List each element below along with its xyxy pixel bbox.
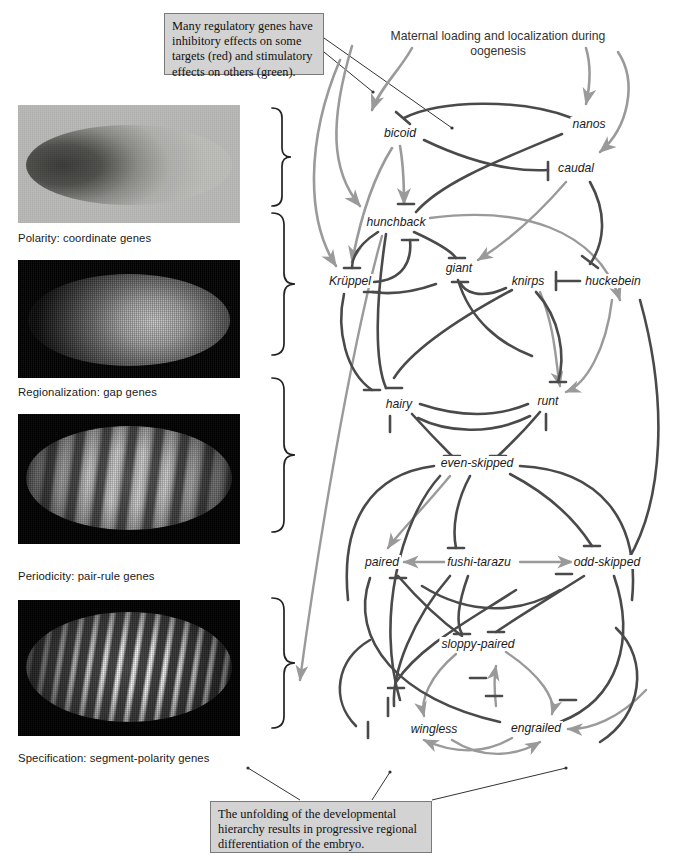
- edge-maternal-kruppel: [314, 60, 340, 266]
- gene-runt[interactable]: runt: [535, 394, 560, 408]
- edge-long-right: [628, 300, 658, 560]
- tier-braces: [272, 108, 295, 728]
- edge-maternal-bicoid: [372, 48, 412, 110]
- edge-bicoid-hunchback: [400, 146, 404, 204]
- gene-knirps[interactable]: knirps: [510, 274, 547, 288]
- edge-maternal-nanos: [586, 48, 590, 104]
- edge-wg-feedback: [340, 640, 370, 726]
- edge-sloppy-engrailed: [506, 652, 553, 714]
- edge-eve-loop-left: [347, 466, 434, 600]
- figure-root: Polarity: coordinate genes Regionalizati…: [0, 0, 676, 860]
- brace-pair-rule: [272, 378, 295, 532]
- gene-hairy[interactable]: hairy: [384, 397, 414, 411]
- leader-bottom-mid: [372, 772, 390, 800]
- gene-odd-skipped[interactable]: odd-skipped: [572, 555, 642, 569]
- brace-segment-polarity: [272, 598, 295, 728]
- gene-engrailed[interactable]: engrailed: [509, 721, 563, 735]
- brace-gap: [272, 213, 295, 355]
- gene-caudal[interactable]: caudal: [556, 161, 596, 175]
- edge-en-feedback: [600, 628, 637, 742]
- gene-sloppy-paired[interactable]: sloppy-paired: [439, 637, 516, 651]
- gene-wingless[interactable]: wingless: [409, 722, 460, 736]
- edge-runt-eve: [498, 412, 540, 456]
- edge-hairy-eve: [412, 414, 452, 456]
- edge-gap-runt: [566, 300, 612, 392]
- edge-maternal-hunchback-a: [336, 46, 360, 206]
- brace-polarity: [272, 108, 291, 206]
- gene-paired[interactable]: paired: [363, 555, 401, 569]
- edge-odd-sloppy: [496, 576, 584, 632]
- leader-bottom-left: [248, 768, 300, 800]
- edge-cross-2: [396, 590, 516, 682]
- edge-knirps-giant: [460, 282, 506, 294]
- edge-eve-odd: [510, 474, 592, 546]
- tbar-bicoid: [396, 112, 410, 124]
- edge-eve-paired: [388, 476, 450, 548]
- edge-paired-sloppy: [398, 576, 462, 636]
- edge-hairy-runt: [420, 404, 528, 414]
- gene-even-skipped[interactable]: even-skipped: [439, 456, 516, 470]
- edge-runt-hairy: [418, 416, 530, 430]
- edge-hunchback-down-long: [300, 236, 382, 680]
- maternal-inputs: [314, 46, 629, 266]
- edge-giant-kruppel: [372, 284, 436, 293]
- edge-knirps-runt: [540, 292, 560, 386]
- gene-nanos[interactable]: nanos: [570, 117, 607, 131]
- edge-nanos-bicoid: [404, 104, 572, 118]
- edge-caudal-giant: [478, 182, 566, 260]
- gene-fushi-tarazu[interactable]: fushi-tarazu: [445, 555, 513, 569]
- gene-kruppel[interactable]: Krüppel: [327, 274, 373, 288]
- leader-bottom-right: [432, 768, 566, 800]
- gene-bicoid[interactable]: bicoid: [382, 126, 418, 140]
- edge-eve-wingless: [390, 476, 440, 700]
- edge-en-up: [495, 666, 497, 706]
- edge-eve-ftz: [455, 476, 470, 548]
- gene-giant[interactable]: giant: [444, 261, 474, 275]
- edge-maternal-caudal: [600, 52, 628, 152]
- edge-hunchback-giant: [414, 232, 456, 258]
- edge-caudal-knirps: [590, 182, 602, 264]
- gene-hunchback[interactable]: hunchback: [365, 215, 428, 229]
- edge-wg-en-loop-a: [452, 740, 540, 754]
- gene-huckebein[interactable]: huckebein: [583, 274, 643, 288]
- edge-hunchback-hairy: [378, 234, 386, 388]
